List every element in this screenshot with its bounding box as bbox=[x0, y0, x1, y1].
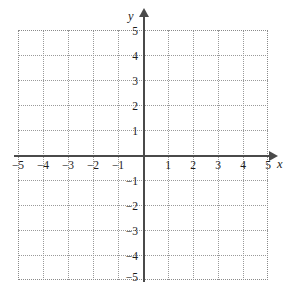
x-tick-label: 4 bbox=[231, 160, 255, 172]
coordinate-plane-figure: −5 −4 −3 −2 −1 1 2 3 4 5 5 4 3 2 1 −1 −2… bbox=[0, 0, 294, 296]
x-tick-label: −4 bbox=[31, 160, 55, 172]
x-tick-label: −1 bbox=[106, 160, 130, 172]
y-tick-label: 3 bbox=[114, 76, 138, 88]
y-tick-label: 2 bbox=[114, 101, 138, 113]
y-tick-label: 1 bbox=[114, 126, 138, 138]
x-axis-label: x bbox=[277, 158, 283, 171]
y-tick-label: −4 bbox=[114, 251, 138, 263]
y-tick-label: −5 bbox=[114, 272, 138, 284]
y-tick-label: −3 bbox=[114, 226, 138, 238]
y-tick-label: 4 bbox=[114, 51, 138, 63]
x-tick-label: −2 bbox=[81, 160, 105, 172]
x-tick-label: 3 bbox=[206, 160, 230, 172]
y-tick-label: −2 bbox=[114, 201, 138, 213]
x-tick-label: −5 bbox=[6, 160, 30, 172]
x-tick-label: 2 bbox=[181, 160, 205, 172]
y-tick-label: 5 bbox=[114, 26, 138, 38]
y-axis-arrow-icon bbox=[139, 8, 149, 17]
y-axis-label: y bbox=[128, 10, 134, 23]
y-axis-line bbox=[143, 14, 145, 282]
x-tick-label: −3 bbox=[56, 160, 80, 172]
x-tick-label: 1 bbox=[156, 160, 180, 172]
y-tick-label: −1 bbox=[114, 176, 138, 188]
